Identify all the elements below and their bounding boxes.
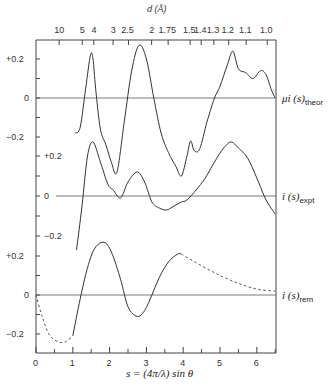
y-tick-label: 0 — [44, 191, 49, 201]
top-tick-label: 1.0 — [260, 25, 273, 35]
top-tick-label: 5 — [80, 25, 85, 35]
x-tick-label: 5 — [217, 358, 222, 368]
y-tick-label: −0.2 — [6, 132, 24, 142]
series-label-rem: i (s)rem — [282, 289, 314, 304]
bottom-axis-ticks: 0123456 — [33, 347, 275, 368]
top-tick-label: 1.2 — [221, 25, 234, 35]
curve-rem-solid — [73, 242, 182, 336]
x-tick-label: 2 — [107, 358, 112, 368]
y-tick-label: +0.2 — [6, 54, 24, 64]
x-axis-label: s = (4π/λ) sin θ — [126, 367, 194, 380]
left-axis-ticks: +0.20−0.2+0.20−0.2+0.20−0.2 — [6, 54, 62, 339]
top-tick-label: 2 — [149, 25, 154, 35]
y-tick-label: +0.2 — [44, 151, 62, 161]
series-label-theor: μi (s)theor — [281, 92, 324, 107]
y-tick-label: −0.2 — [6, 329, 24, 339]
chart-svg: 105432.521.751.51.41.31.21.11.0 0123456 … — [0, 0, 333, 392]
curve-rem-dashed-right — [181, 254, 275, 291]
top-tick-label: 3 — [111, 25, 116, 35]
top-tick-label: 1.75 — [159, 25, 177, 35]
top-tick-label: 2.5 — [121, 25, 134, 35]
y-tick-label: +0.2 — [6, 251, 24, 261]
y-tick-label: 0 — [24, 93, 29, 103]
y-tick-label: 0 — [24, 290, 29, 300]
x-tick-label: 1 — [70, 358, 75, 368]
top-tick-label: 1.4 — [194, 25, 207, 35]
plot-frame — [36, 40, 276, 353]
top-tick-label: 10 — [54, 25, 64, 35]
series-label-expt: i (s)expt — [282, 190, 315, 205]
curves — [36, 45, 276, 343]
top-tick-label: 1.3 — [207, 25, 220, 35]
x-tick-label: 0 — [33, 358, 38, 368]
top-axis-label: d (Å) — [147, 4, 167, 14]
curve-rem-dashed-left — [36, 295, 73, 343]
series-labels: μi (s)theori (s)expti (s)rem — [281, 92, 324, 304]
curve-theor — [75, 45, 275, 176]
top-axis-ticks: 105432.521.751.51.41.31.21.11.0 — [54, 25, 272, 45]
x-tick-label: 6 — [254, 358, 259, 368]
y-tick-label: −0.2 — [44, 231, 62, 241]
top-tick-label: 4 — [91, 25, 96, 35]
top-tick-label: 1.1 — [239, 25, 252, 35]
